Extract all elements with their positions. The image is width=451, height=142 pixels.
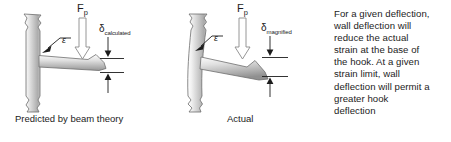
note-line: wall deflection will xyxy=(334,20,448,32)
deflection-label-actual: δmagnified xyxy=(261,22,292,35)
note-line: For a given deflection, xyxy=(334,8,448,20)
deflection-subscript-actual: magnified xyxy=(267,29,292,35)
hook-beam-predicted xyxy=(39,55,106,71)
note-line: greater hook xyxy=(334,93,448,105)
note-line: strain limit, wall xyxy=(334,68,448,80)
force-symbol-predicted: F xyxy=(77,2,84,14)
force-subscript-actual: p xyxy=(244,8,248,17)
force-label-predicted: Fp xyxy=(77,2,88,17)
beam-deflection-figure: Fp δcalculated ε Fp δmagnified ε Predict… xyxy=(0,0,451,142)
force-subscript-predicted: p xyxy=(84,8,88,17)
caption-predicted-by-beam-theory: Predicted by beam theory xyxy=(15,113,123,124)
note-line: reduce the actual xyxy=(334,32,448,44)
deflection-dimension-actual xyxy=(262,36,288,97)
force-arrow-actual xyxy=(235,18,250,59)
force-symbol-actual: F xyxy=(237,2,244,14)
wall-straight xyxy=(24,14,41,112)
strain-label-predicted: ε xyxy=(62,35,66,45)
note-line: the hook. At a given xyxy=(334,56,448,68)
note-line: deflection will permit a xyxy=(334,81,448,93)
hook-beam-actual xyxy=(200,57,268,80)
deflection-label-predicted: δcalculated xyxy=(99,23,131,36)
deflection-subscript-predicted: calculated xyxy=(105,30,131,36)
explanatory-note: For a given deflection, wall deflection … xyxy=(334,8,448,117)
force-arrow-predicted xyxy=(75,18,90,59)
note-line: strain at the base of xyxy=(334,44,448,56)
strain-leader-predicted xyxy=(42,38,71,53)
note-line: deflection xyxy=(334,105,448,117)
caption-actual: Actual xyxy=(227,113,253,124)
force-label-actual: Fp xyxy=(237,2,248,17)
strain-label-actual: ε xyxy=(214,33,218,43)
